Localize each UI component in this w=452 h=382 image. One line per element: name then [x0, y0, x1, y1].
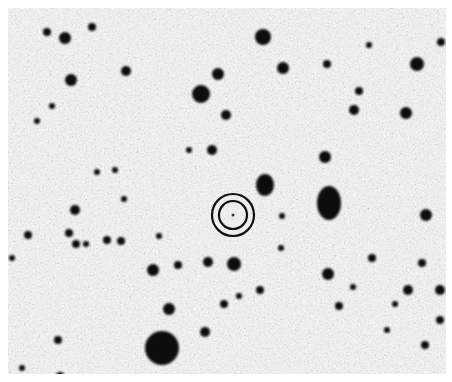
- source-blob: [317, 186, 341, 220]
- source-blob: [54, 336, 62, 344]
- sky-background: [8, 8, 446, 374]
- sky-image: [8, 8, 446, 374]
- source-blob: [186, 147, 192, 153]
- source-blob: [121, 196, 127, 202]
- source-blob: [65, 229, 73, 237]
- source-blob: [366, 42, 372, 48]
- target-marker: [212, 194, 254, 236]
- source-blob: [72, 240, 80, 248]
- source-blob: [384, 327, 390, 333]
- source-blob: [163, 303, 175, 315]
- source-blob: [403, 285, 413, 295]
- source-blob: [200, 327, 210, 337]
- source-blob: [9, 255, 15, 261]
- source-blob: [322, 268, 334, 280]
- source-blob: [256, 286, 264, 294]
- source-blob: [436, 316, 444, 324]
- source-blob: [279, 213, 285, 219]
- source-blob: [94, 169, 100, 175]
- source-blob: [65, 74, 77, 86]
- source-blob: [368, 254, 376, 262]
- source-blob: [437, 38, 445, 46]
- source-blob: [83, 241, 89, 247]
- source-blob: [174, 261, 182, 269]
- source-blob: [207, 145, 217, 155]
- source-blob: [117, 237, 125, 245]
- source-blob: [255, 29, 271, 45]
- source-blob: [70, 205, 80, 215]
- source-blob: [335, 302, 343, 310]
- source-blob: [49, 103, 55, 109]
- source-blob: [323, 60, 331, 68]
- source-blob: [212, 68, 224, 80]
- source-blob: [350, 284, 356, 290]
- target-source: [232, 214, 235, 217]
- source-blob: [19, 365, 25, 371]
- source-blob: [349, 105, 359, 115]
- source-blob: [221, 110, 231, 120]
- source-blob: [227, 257, 241, 271]
- source-blob: [203, 257, 213, 267]
- source-blob: [421, 341, 429, 349]
- source-blob: [418, 259, 426, 267]
- source-blob: [236, 293, 242, 299]
- source-blob: [34, 118, 40, 124]
- source-blob: [420, 209, 432, 221]
- source-blob: [410, 57, 424, 71]
- source-blob: [400, 107, 412, 119]
- source-blob: [24, 231, 32, 239]
- source-blob: [156, 233, 162, 239]
- source-blob: [121, 66, 131, 76]
- source-blob: [147, 264, 159, 276]
- source-blob: [392, 301, 398, 307]
- source-blob: [278, 245, 284, 251]
- source-blob: [277, 62, 289, 74]
- source-blob: [145, 331, 179, 365]
- source-blob: [319, 151, 331, 163]
- sky-noise-layer: [8, 8, 446, 374]
- source-blob: [220, 300, 228, 308]
- source-blob: [435, 285, 445, 295]
- source-blob: [112, 167, 118, 173]
- source-blob: [59, 32, 71, 44]
- source-blob: [43, 28, 51, 36]
- source-blob: [192, 85, 210, 103]
- source-blob: [256, 174, 274, 196]
- source-blob: [88, 23, 96, 31]
- source-blob: [355, 87, 363, 95]
- source-blob: [103, 236, 111, 244]
